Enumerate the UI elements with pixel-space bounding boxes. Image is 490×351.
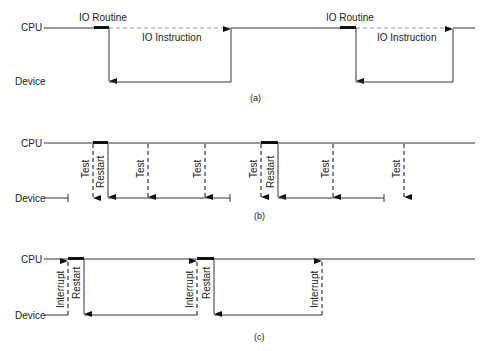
restart-label-c-1: Restart: [71, 267, 82, 299]
device-label-a: Device: [15, 76, 46, 87]
caption-a: (a): [250, 93, 261, 103]
io-timing-diagram: CPU Device IO Routine IO Routine IO Inst…: [0, 0, 490, 351]
device-label-b: Device: [15, 193, 46, 204]
test-label-b-2: Test: [135, 159, 146, 178]
io-instruction-label-a-1: IO Instruction: [142, 32, 201, 43]
io-routine-bar-c-2: [197, 257, 214, 260]
device-label-c: Device: [15, 310, 46, 321]
io-routine-bar-a-2: [340, 26, 356, 29]
panel-b: CPU Device Test Restart Test Test Test R…: [15, 138, 475, 221]
test-label-b-6: Test: [391, 159, 402, 178]
caption-b: (b): [254, 211, 265, 221]
interrupt-label-c-3: Interrupt: [309, 271, 320, 308]
interrupt-label-c-2: Interrupt: [184, 271, 195, 308]
test-label-b-3: Test: [192, 159, 203, 178]
cpu-label-c: CPU: [21, 254, 42, 265]
restart-label-c-2: Restart: [201, 267, 212, 299]
panel-a: CPU Device IO Routine IO Routine IO Inst…: [15, 12, 475, 103]
test-label-b-4: Test: [248, 159, 259, 178]
restart-label-b-1: Restart: [95, 156, 106, 188]
io-routine-bar-b-1: [93, 141, 108, 144]
test-label-b-5: Test: [320, 159, 331, 178]
restart-label-b-2: Restart: [265, 156, 276, 188]
io-routine-label-a-2: IO Routine: [326, 12, 374, 23]
io-routine-label-a-1: IO Routine: [79, 12, 127, 23]
interrupt-label-c-1: Interrupt: [55, 271, 66, 308]
io-routine-bar-b-2: [261, 141, 278, 144]
caption-c: (c): [254, 332, 265, 342]
io-routine-bar-a-1: [94, 26, 109, 29]
io-instruction-label-a-2: IO Instruction: [377, 32, 436, 43]
cpu-label-b: CPU: [21, 138, 42, 149]
cpu-label-a: CPU: [21, 22, 42, 33]
io-routine-bar-c-1: [68, 257, 84, 260]
panel-c: CPU Device Interrupt Restart Interrupt R…: [15, 254, 475, 342]
test-label-b-1: Test: [80, 159, 91, 178]
